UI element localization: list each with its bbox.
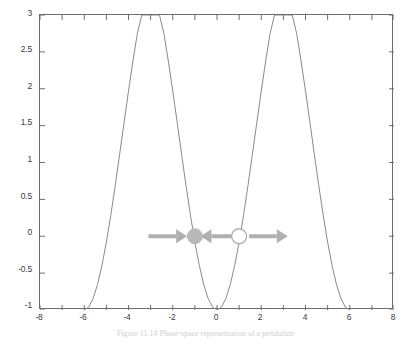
x-tick-label: 0 [204,313,228,322]
data-curve [84,15,350,310]
figure-container: 3 2.5 2 1.5 1 0.5 0 -0.5 -1 -8 -6 -4 -2 … [0,0,411,342]
plot-canvas [40,15,394,310]
y-tick-label: 2 [2,82,32,91]
y-tick-label: -1 [2,301,32,310]
x-tick-label: 4 [293,313,317,322]
plot-area [39,14,393,309]
arrow-middle-inward [200,229,231,243]
axis-ticks [40,15,394,310]
arrow-right-outward [249,229,288,243]
annotation-arrows [148,229,287,243]
y-tick-label: 2.5 [2,45,32,54]
x-tick-label: 6 [337,313,361,322]
x-tick-label: -4 [115,313,139,322]
x-tick-label: -6 [71,313,95,322]
stable-point [187,229,202,244]
y-tick-label: -0.5 [2,265,32,274]
x-tick-label: -8 [27,313,51,322]
x-tick-label: -2 [160,313,184,322]
y-tick-label: 1 [2,155,32,164]
y-tick-label: 0.5 [2,192,32,201]
y-tick-label: 0 [2,228,32,237]
x-tick-label: 8 [381,313,405,322]
y-tick-label: 3 [2,9,32,18]
figure-caption: Figure 11.14 Phase-space representation … [0,329,411,339]
unstable-point [232,229,247,244]
x-tick-label: 2 [248,313,272,322]
y-tick-label: 1.5 [2,118,32,127]
arrow-left-inward [148,229,187,243]
